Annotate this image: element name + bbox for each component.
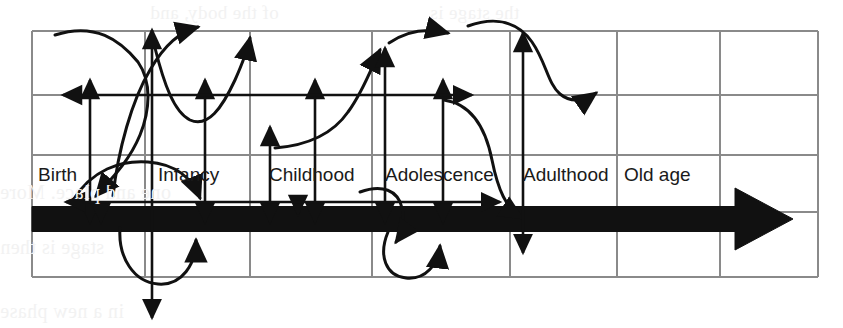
curve-childhood-s-up xyxy=(275,50,380,148)
stage-labels-layer: BirthInfancyChildhoodAdolescenceAdulthoo… xyxy=(38,164,691,185)
main-time-arrow xyxy=(32,188,793,250)
stage-label-childhood: Childhood xyxy=(269,164,355,185)
curve-adolescence-loop xyxy=(384,232,440,278)
stage-label-infancy: Infancy xyxy=(158,164,220,185)
stage-label-birth: Birth xyxy=(38,164,77,185)
lifespan-development-figure: BirthInfancyChildhoodAdolescenceAdulthoo… xyxy=(0,0,843,328)
curve-adolescence-out xyxy=(389,30,448,43)
curve-infancy-u xyxy=(155,38,250,122)
curve-oldage-s xyxy=(468,21,596,100)
stage-label-adulthood: Adulthood xyxy=(523,164,609,185)
main-time-arrow xyxy=(32,188,793,250)
stage-label-adolescence: Adolescence xyxy=(385,164,494,185)
stage-label-old-age: Old age xyxy=(624,164,691,185)
curve-infancy-loop-under xyxy=(120,228,196,284)
figure-canvas: BirthInfancyChildhoodAdolescenceAdulthoo… xyxy=(0,0,843,328)
curved-arrows-layer xyxy=(55,21,596,284)
